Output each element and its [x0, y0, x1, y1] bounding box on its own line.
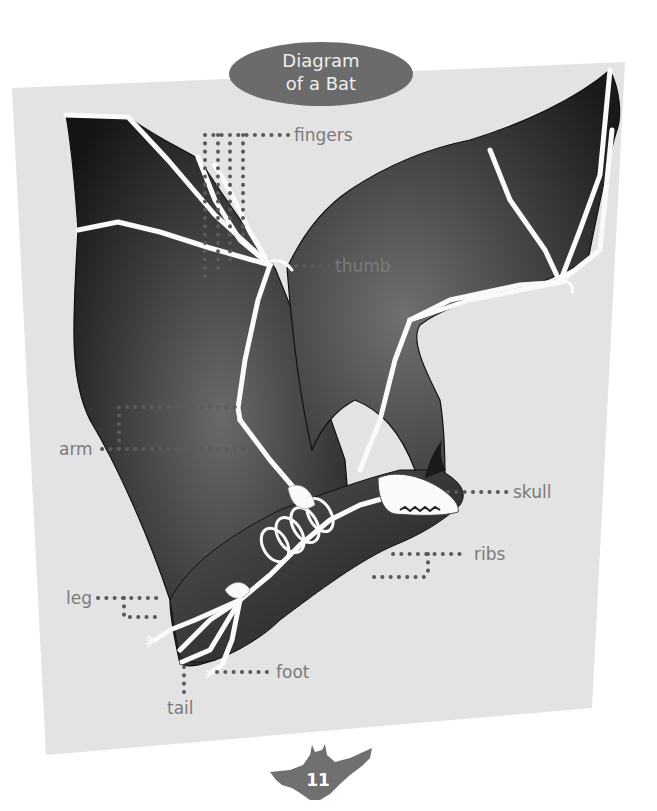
- label-tail: tail: [167, 698, 194, 718]
- page-number: 11: [306, 770, 330, 790]
- title-badge: Diagram of a Bat: [229, 42, 413, 106]
- label-arm: arm: [59, 439, 93, 459]
- label-ribs: ribs: [474, 544, 506, 564]
- label-thumb: thumb: [335, 256, 391, 276]
- title-line-1: Diagram: [282, 50, 359, 71]
- title-line-2: of a Bat: [286, 73, 356, 94]
- page-number-badge: 11: [270, 744, 372, 800]
- diagram-canvas: Diagram of a Bat: [0, 0, 657, 811]
- label-fingers: fingers: [294, 125, 353, 145]
- label-skull: skull: [513, 482, 551, 502]
- label-foot: foot: [276, 662, 310, 682]
- bat-diagram-page: Diagram of a Bat: [0, 0, 657, 811]
- label-leg: leg: [66, 588, 92, 608]
